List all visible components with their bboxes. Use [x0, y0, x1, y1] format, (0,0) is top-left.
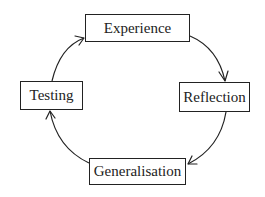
arrow-reflection-to-generalisation: [188, 112, 226, 164]
node-generalisation: Generalisation: [89, 158, 186, 185]
arrow-experience-to-reflection: [190, 36, 228, 81]
arrow-testing-to-experience: [52, 36, 84, 81]
node-testing: Testing: [20, 81, 83, 110]
node-experience: Experience: [85, 14, 190, 42]
node-label-generalisation: Generalisation: [94, 164, 181, 179]
learning-cycle-diagram: Experience Reflection Generalisation Tes…: [0, 0, 265, 197]
arrow-generalisation-to-testing: [46, 111, 89, 163]
node-reflection: Reflection: [179, 82, 250, 112]
node-label-experience: Experience: [104, 21, 171, 36]
node-label-testing: Testing: [30, 88, 74, 103]
node-label-reflection: Reflection: [183, 90, 245, 105]
